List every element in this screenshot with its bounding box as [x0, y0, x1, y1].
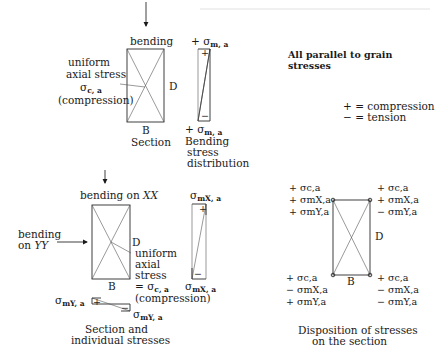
bending-xx-label: bending on XX [80, 189, 159, 201]
bending-label: bending [130, 35, 174, 47]
lower-caption-2: individual stresses [71, 334, 170, 346]
breadth-label-3: B [347, 275, 355, 287]
svg-text:− σmY,a: − σmY,a [377, 206, 418, 217]
dist-top-label: + σm, a [191, 35, 228, 49]
plus-sign: + [201, 47, 209, 58]
corner-top-left: + σc,a + σmX,a + σmY,a [289, 182, 331, 217]
axial-leader-line [120, 84, 145, 87]
dist-caption-3: distribution [187, 157, 249, 169]
minus-sign-y: − [121, 302, 129, 313]
disposition-section: D B + σc,a + σmX,a + σmY,a + σc,a + σmX,… [286, 182, 419, 347]
axial-label-1: uniform [68, 56, 110, 68]
svg-text:+ σmY,a: + σmY,a [286, 296, 327, 307]
legend-tension: − = tension [343, 111, 407, 123]
notes-title-1: All parallel to grain [287, 49, 392, 60]
breadth-label: B [142, 124, 150, 136]
bending-x-distribution: + − [192, 203, 207, 279]
svg-text:+ σc,a: + σc,a [377, 272, 409, 283]
bending-stress-distribution: + − [198, 47, 210, 121]
svg-text:+ σc,a: + σc,a [289, 182, 321, 193]
svg-text:− σmX,a: − σmX,a [286, 284, 328, 295]
svg-text:+ σc,a: + σc,a [286, 272, 318, 283]
depth-label-3: D [375, 230, 383, 242]
bending-yy-label-2: on YY [18, 239, 49, 251]
axial-symbol: σc, a [80, 81, 102, 95]
svg-text:− σmY,a: − σmY,a [377, 296, 418, 307]
svg-text:+ σmX,a: + σmX,a [377, 194, 419, 205]
notes: All parallel to grain stresses + = compr… [287, 49, 435, 123]
bleed-through-text [200, 8, 430, 10]
my-right-label: σmY, a [133, 308, 163, 322]
breadth-label-2: B [108, 280, 116, 292]
disposition-caption-2: on the section [312, 335, 387, 347]
axial-label-2: axial stress [66, 68, 126, 80]
my-left-label: σmY, a [55, 294, 85, 308]
corner-bottom-right: + σc,a − σmX,a − σmY,a [377, 272, 419, 307]
svg-text:+ σc,a: + σc,a [377, 182, 409, 193]
plus-sign-y: + [93, 296, 101, 307]
svg-text:+ σmY,a: + σmY,a [289, 206, 330, 217]
lower-section: bending on XX bending on YY D B uniform … [18, 170, 221, 346]
corner-bottom-left: + σc,a − σmX,a + σmY,a [286, 272, 328, 307]
stress-diagram: bending uniform axial stress σc, a (comp… [0, 0, 435, 360]
top-section: bending uniform axial stress σc, a (comp… [58, 2, 249, 169]
svg-text:− σmX,a: − σmX,a [377, 284, 419, 295]
depth-label: D [169, 80, 177, 92]
bending-y-distribution: + − [92, 296, 130, 313]
minus-sign-x: − [194, 268, 202, 279]
plus-sign-x: + [199, 203, 207, 214]
axial-note: (compression) [58, 94, 134, 106]
mx-top-label: σmX, a [190, 189, 221, 203]
svg-text:+ σmX,a: + σmX,a [289, 194, 331, 205]
section-caption: Section [131, 136, 171, 148]
minus-sign: − [201, 110, 209, 121]
mx-bottom-label: σmX, a [185, 280, 216, 294]
notes-title-2: stresses [288, 60, 331, 71]
corner-top-right: + σc,a + σmX,a − σmY,a [377, 182, 419, 217]
